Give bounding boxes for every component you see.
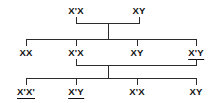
genotype-text: X'X bbox=[129, 86, 145, 97]
genotype-g2-child-2: X'X bbox=[68, 47, 84, 58]
genotype-text: XY bbox=[132, 5, 145, 16]
sibship-drop-g2-3 bbox=[137, 39, 138, 46]
sibship-bar-g3 bbox=[26, 78, 197, 79]
genotype-g3-child-2: X'Y bbox=[68, 86, 84, 99]
genotype-g2-child-4: X'Y bbox=[188, 47, 204, 60]
sibship-drop-g2-4 bbox=[196, 39, 197, 46]
genotype-g1-mother: X'X bbox=[68, 5, 84, 16]
genotype-text: XY bbox=[189, 86, 202, 97]
genotype-g3-child-4: XY bbox=[189, 86, 202, 97]
sibship-drop-g2-2 bbox=[76, 39, 77, 46]
descent-line-g2 bbox=[108, 65, 109, 79]
genotype-text: X'X' bbox=[17, 86, 35, 97]
mating-line-g2-bar bbox=[76, 65, 197, 66]
mating-line-g1-right-drop bbox=[139, 17, 140, 24]
genotype-text: X'Y bbox=[188, 47, 204, 58]
genotype-g3-child-1: X'X' bbox=[17, 86, 35, 99]
genotype-text: XX bbox=[19, 47, 32, 58]
pedigree-diagram: X'X XY XX X'X XY X'Y X'X' X' bbox=[0, 0, 215, 103]
genotype-g2-child-3: XY bbox=[130, 47, 143, 58]
genotype-text: X'X bbox=[68, 5, 84, 16]
sibship-drop-g3-4 bbox=[196, 78, 197, 85]
sibship-drop-g3-2 bbox=[76, 78, 77, 85]
genotype-g2-child-1: XX bbox=[19, 47, 32, 58]
genotype-text: X'Y bbox=[68, 86, 84, 97]
genotype-text: X'X bbox=[68, 47, 84, 58]
genotype-g1-father: XY bbox=[132, 5, 145, 16]
descent-line-g1 bbox=[108, 23, 109, 40]
sibship-drop-g3-3 bbox=[137, 78, 138, 85]
sibship-bar-g2 bbox=[26, 39, 197, 40]
mating-line-g2-right-drop bbox=[196, 59, 197, 66]
genotype-text: XY bbox=[130, 47, 143, 58]
genotype-g3-child-3: X'X bbox=[129, 86, 145, 97]
sibship-drop-g3-1 bbox=[26, 78, 27, 85]
sibship-drop-g2-1 bbox=[26, 39, 27, 46]
